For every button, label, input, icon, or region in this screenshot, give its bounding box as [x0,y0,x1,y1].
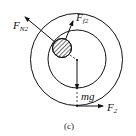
ball-hatch [53,39,72,58]
figure-caption: (c) [64,122,74,131]
friction-force-label: Ff2 [76,12,88,25]
ball-center-dash [70,55,77,60]
applied-force-label-base: F [107,101,114,113]
normal-force-label-sub: N2 [20,25,28,33]
friction-force-label-base: F [76,11,83,23]
applied-force-label-sub: 2 [114,107,118,115]
friction-force-label-sub: f2 [83,17,88,25]
normal-force-label-base: F [13,19,20,31]
gravity-label-text: mg [81,90,94,102]
applied-force-label: F2 [107,102,117,115]
normal-force-label: FN2 [13,20,28,33]
force-diagram: FN2 Ff2 mg F2 (c) [0,0,136,136]
gravity-label: mg [81,91,94,102]
